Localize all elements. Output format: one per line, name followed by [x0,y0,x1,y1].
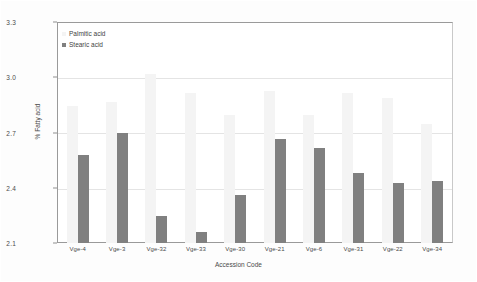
chart-legend: Palmitic acid Stearic acid [62,28,105,50]
bar-palmitic [421,124,432,243]
y-tick-label: 3.0 [0,74,16,81]
x-tick-label: Vge-32 [139,246,173,252]
bar-stearic [196,232,207,243]
x-tick-label: Vge-21 [258,246,292,252]
bar-stearic [314,148,325,243]
bar-group [415,23,449,243]
bar-palmitic [106,102,117,243]
bar-group [258,23,292,243]
bar-group [218,23,252,243]
bar-palmitic [303,115,314,243]
bar-group [139,23,173,243]
x-tick-label: Vge-22 [376,246,410,252]
bar-palmitic [185,93,196,243]
bar-palmitic [145,74,156,243]
x-axis: Vge-4Vge-3Vge-32Vge-33Vge-30Vge-21Vge-6V… [58,246,452,252]
legend-swatch-icon [62,32,66,36]
bar-stearic [393,183,404,244]
x-tick-label: Vge-3 [100,246,134,252]
bar-stearic [78,155,89,243]
bar-stearic [117,133,128,243]
bar-stearic [235,195,246,243]
chart-figure: 3.3 3.0 2.7 2.4 2.1 % Fatty acid Palmiti… [0,0,477,282]
bar-group [179,23,213,243]
bar-group [376,23,410,243]
y-tick-label: 2.7 [0,130,16,137]
bar-palmitic [382,98,393,243]
bar-stearic [353,173,364,243]
x-tick-label: Vge-31 [336,246,370,252]
y-axis-title: % Fatty acid [34,77,41,167]
legend-item-palmitic: Palmitic acid [62,28,105,39]
bar-stearic [432,181,443,243]
bar-palmitic [224,115,235,243]
bar-group [100,23,134,243]
legend-label: Stearic acid [69,41,103,48]
bar-palmitic [264,91,275,243]
y-tick-label: 2.4 [0,185,16,192]
bar-group [336,23,370,243]
bar-stearic [156,216,167,244]
bar-stearic [275,139,286,244]
legend-swatch-icon [62,43,66,47]
bar-series-container [58,23,452,243]
bar-palmitic [67,106,78,244]
x-tick-label: Vge-30 [218,246,252,252]
x-tick-label: Vge-34 [415,246,449,252]
bar-group [297,23,331,243]
y-tick-label: 3.3 [0,19,16,26]
x-tick-label: Vge-6 [297,246,331,252]
bar-palmitic [342,93,353,243]
x-tick-label: Vge-33 [179,246,213,252]
x-axis-title: Accession Code [0,261,477,268]
bar-group [61,23,95,243]
y-tick-label: 2.1 [0,240,16,247]
x-tick-label: Vge-4 [61,246,95,252]
legend-item-stearic: Stearic acid [62,39,105,50]
legend-label: Palmitic acid [69,30,105,37]
